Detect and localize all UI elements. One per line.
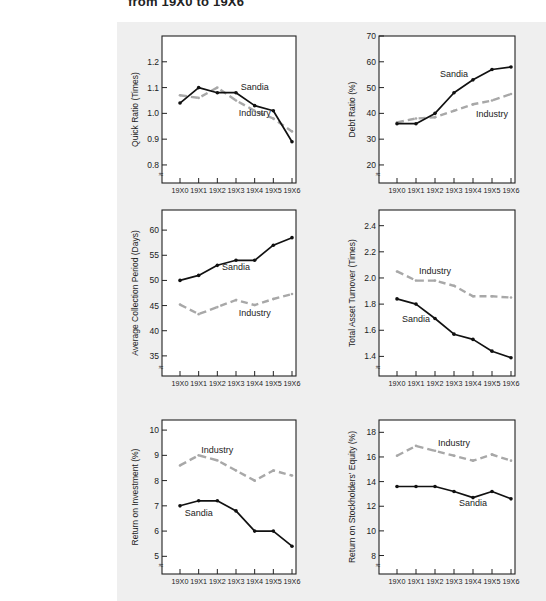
data-point: [452, 332, 456, 336]
series-label: Sandia: [185, 508, 213, 518]
chart-quick-ratio: 0.80.91.01.11.2≈19X019X119X219X319X419X5…: [130, 36, 300, 195]
y-tick-label: 1.1: [147, 83, 159, 93]
y-tick-label: 2.0: [364, 273, 376, 283]
y-tick-label: 10: [150, 425, 160, 435]
data-point: [471, 338, 475, 342]
data-point: [290, 236, 294, 240]
x-tick-label: 19X1: [190, 379, 207, 388]
data-point: [415, 445, 418, 448]
data-point: [216, 459, 219, 462]
x-tick-label: 19X1: [190, 186, 207, 195]
x-tick-label: 19X3: [228, 379, 245, 388]
data-point: [433, 317, 437, 321]
data-point: [216, 499, 220, 503]
x-tick-label: 19X4: [246, 577, 263, 586]
data-point: [197, 499, 201, 503]
x-tick-label: 19X0: [389, 577, 406, 586]
x-tick-label: 19X2: [209, 186, 226, 195]
y-tick-label: 8: [154, 476, 159, 486]
data-point: [414, 122, 418, 126]
series-label: Industry: [419, 266, 452, 276]
x-tick-label: 19X6: [284, 186, 301, 195]
x-tick-label: 19X1: [408, 186, 425, 195]
data-point: [272, 243, 276, 247]
x-tick-label: 19X6: [284, 379, 301, 388]
x-tick-label: 19X1: [408, 577, 425, 586]
x-tick-label: 19X5: [484, 577, 501, 586]
y-tick-label: 1.2: [147, 57, 159, 67]
x-tick-label: 19X0: [389, 379, 406, 388]
data-point: [510, 459, 513, 462]
y-tick-label: 1.6: [364, 325, 376, 335]
data-point: [453, 285, 456, 288]
x-tick-label: 19X2: [427, 186, 444, 195]
x-tick-label: 19X3: [228, 186, 245, 195]
data-point: [415, 117, 418, 120]
data-point: [179, 464, 182, 467]
x-tick-label: 19X5: [484, 379, 501, 388]
data-point: [396, 270, 399, 273]
axis-break-icon: ≈: [159, 362, 164, 372]
x-tick-label: 19X4: [465, 577, 482, 586]
y-tick-label: 0.9: [147, 134, 159, 144]
x-tick-label: 19X0: [172, 186, 189, 195]
x-tick-label: 19X4: [465, 379, 482, 388]
data-point: [272, 109, 276, 113]
data-point: [235, 99, 238, 102]
data-point: [491, 295, 494, 298]
x-tick-label: 19X5: [265, 379, 282, 388]
series-label: Sandia: [222, 262, 250, 272]
y-axis-label: Debt Ratio (%): [347, 81, 357, 137]
data-point: [216, 86, 219, 89]
data-point: [179, 94, 182, 97]
x-tick-label: 19X0: [172, 379, 189, 388]
plot-area: [162, 420, 296, 574]
data-point: [452, 490, 456, 494]
data-point: [178, 504, 182, 508]
data-point: [290, 140, 294, 144]
y-tick-label: 60: [367, 57, 377, 67]
data-point: [272, 117, 275, 120]
x-tick-label: 19X2: [427, 577, 444, 586]
y-axis-label: Quick Ratio (Times): [130, 72, 140, 147]
data-point: [395, 122, 399, 126]
data-point: [453, 454, 456, 457]
data-point: [490, 349, 494, 353]
data-point: [272, 298, 275, 301]
x-tick-label: 19X3: [446, 379, 463, 388]
data-point: [253, 259, 257, 263]
data-point: [433, 485, 437, 489]
x-tick-label: 19X5: [265, 577, 282, 586]
x-tick-label: 19X6: [503, 379, 520, 388]
series-label: Industry: [201, 445, 234, 455]
data-point: [510, 296, 513, 299]
axis-break-icon: ≈: [376, 169, 381, 179]
data-point: [491, 453, 494, 456]
chart-debt-ratio: 203040506070≈19X019X119X219X319X419X519X…: [347, 31, 519, 195]
data-point: [415, 279, 418, 282]
data-point: [395, 485, 399, 489]
y-tick-label: 35: [150, 351, 160, 361]
data-point: [253, 529, 257, 533]
x-tick-label: 19X3: [228, 577, 245, 586]
series-label: Sandia: [459, 498, 487, 508]
data-point: [197, 454, 200, 457]
axis-break-icon: ≈: [159, 169, 164, 179]
data-point: [434, 279, 437, 282]
data-point: [490, 68, 494, 72]
x-tick-label: 19X5: [265, 186, 282, 195]
y-tick-label: 1.8: [364, 299, 376, 309]
data-point: [472, 459, 475, 462]
data-point: [472, 103, 475, 106]
axis-break-icon: ≈: [376, 362, 381, 372]
data-point: [509, 497, 513, 501]
x-tick-label: 19X2: [209, 577, 226, 586]
data-point: [434, 116, 437, 119]
x-tick-label: 19X1: [190, 577, 207, 586]
chart-total-asset-turnover: 1.41.61.82.02.22.4≈19X019X119X219X319X41…: [347, 210, 519, 388]
data-point: [216, 306, 219, 309]
data-point: [216, 91, 220, 95]
data-point: [433, 112, 437, 116]
data-point: [491, 99, 494, 102]
y-tick-label: 18: [367, 427, 377, 437]
